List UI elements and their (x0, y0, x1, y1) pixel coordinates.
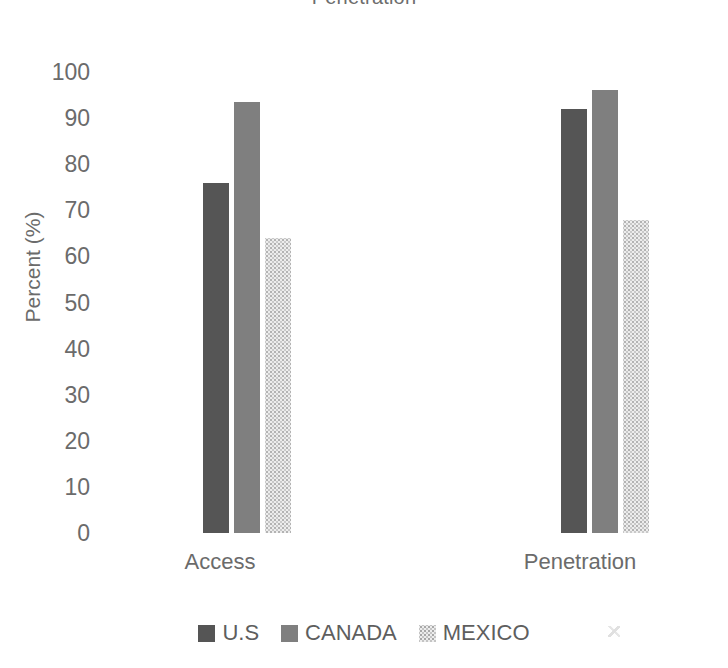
bar-chart: Penetration Percent (%) 1009080706050403… (0, 0, 728, 668)
y-axis-tick-60: 60 (64, 245, 90, 268)
legend-label-us: U.S (222, 620, 259, 646)
legend-item-canada[interactable]: CANADA (281, 620, 397, 646)
plot-area: 1009080706050403020100 (100, 60, 708, 545)
y-axis-tick-40: 40 (64, 337, 90, 360)
legend-swatch-us (198, 625, 215, 642)
y-axis-tick-20: 20 (64, 429, 90, 452)
y-axis-title: Percent (%) (10, 0, 56, 533)
bar-group-penetration (550, 60, 660, 533)
y-axis-tick-10: 10 (64, 475, 90, 498)
y-axis-tick-50: 50 (64, 291, 90, 314)
y-axis-tick-0: 0 (77, 522, 90, 545)
legend-label-canada: CANADA (305, 620, 397, 646)
y-axis-tick-30: 30 (64, 383, 90, 406)
bar-penetration-mexico (623, 220, 649, 533)
x-axis-label-penetration: Penetration (460, 549, 700, 575)
chart-title: Penetration (0, 0, 728, 12)
bar-penetration-canada (592, 90, 618, 533)
legend-swatch-mexico (419, 625, 436, 642)
legend-item-mexico[interactable]: MEXICO (419, 620, 530, 646)
legend-label-mexico: MEXICO (443, 620, 530, 646)
y-axis-tick-90: 90 (64, 107, 90, 130)
y-axis-tick-70: 70 (64, 199, 90, 222)
y-axis-title-label: Percent (%) (21, 211, 45, 322)
legend-swatch-canada (281, 625, 298, 642)
scan-artifact-mark (608, 626, 620, 637)
bar-access-mexico (265, 238, 291, 533)
bar-penetration-us (561, 109, 587, 533)
bar-access-us (203, 183, 229, 533)
x-axis-label-access: Access (120, 549, 320, 575)
y-axis-tick-100: 100 (52, 61, 90, 84)
bar-group-access (192, 60, 302, 533)
legend-item-us[interactable]: U.S (198, 620, 259, 646)
y-axis-tick-80: 80 (64, 153, 90, 176)
bar-access-canada (234, 102, 260, 533)
bar-groups (100, 60, 708, 545)
